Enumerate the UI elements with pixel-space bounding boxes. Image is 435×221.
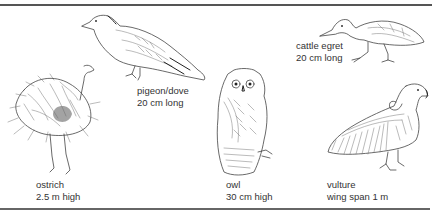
- owl-illustration: [214, 68, 274, 178]
- bird-size: 20 cm long: [137, 97, 189, 109]
- ostrich-illustration: [4, 60, 104, 180]
- label-ostrich: ostrich 2.5 m high: [36, 179, 80, 203]
- bottom-rule: [0, 208, 430, 210]
- bird-name: pigeon/dove: [137, 85, 189, 97]
- label-pigeon: pigeon/dove 20 cm long: [137, 85, 189, 109]
- bird-name: cattle egret: [296, 40, 343, 52]
- bird-size: 20 cm long: [296, 52, 343, 64]
- bird-name: ostrich: [36, 179, 80, 191]
- top-rule: [0, 4, 432, 6]
- label-owl: owl 30 cm high: [226, 179, 272, 203]
- bird-name: vulture: [327, 179, 388, 191]
- label-cattle-egret: cattle egret 20 cm long: [296, 40, 343, 64]
- vulture-illustration: [322, 80, 434, 180]
- bird-name: owl: [226, 179, 272, 191]
- bird-size: 2.5 m high: [36, 191, 80, 203]
- bird-size: wing span 1 m: [327, 191, 388, 203]
- label-vulture: vulture wing span 1 m: [327, 179, 388, 203]
- bird-size: 30 cm high: [226, 191, 272, 203]
